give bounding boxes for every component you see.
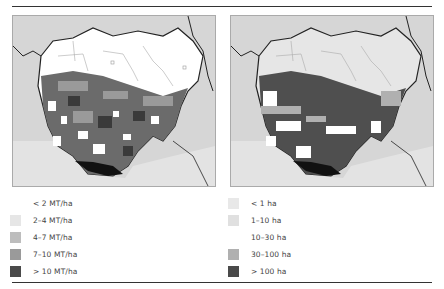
legend-swatch bbox=[228, 215, 239, 226]
legend-label: 4–7 MT/ha bbox=[33, 233, 73, 242]
legend-swatch bbox=[10, 198, 21, 209]
legend-farm-size: < 1 ha 1–10 ha 10–30 ha 30–100 ha > 100 … bbox=[228, 195, 291, 280]
legend-label: > 100 ha bbox=[251, 267, 287, 276]
nigeria-farm-size-map-graphic bbox=[231, 16, 433, 186]
legend-item: < 2 MT/ha bbox=[10, 195, 78, 212]
legend-swatch bbox=[10, 215, 21, 226]
map-yield bbox=[12, 15, 216, 187]
legend-swatch bbox=[228, 198, 239, 209]
legend-item: > 100 ha bbox=[228, 263, 291, 280]
legend-label: 7–10 MT/ha bbox=[33, 250, 77, 259]
legend-label: < 1 ha bbox=[251, 199, 277, 208]
legend-item: 30–100 ha bbox=[228, 246, 291, 263]
legend-swatch bbox=[10, 249, 21, 260]
legend-item: 4–7 MT/ha bbox=[10, 229, 78, 246]
legend-item: > 10 MT/ha bbox=[10, 263, 78, 280]
legend-swatch bbox=[228, 249, 239, 260]
legend-label: 30–100 ha bbox=[251, 250, 291, 259]
bottom-rule bbox=[12, 282, 432, 283]
legend-swatch bbox=[228, 232, 239, 243]
legend-label: > 10 MT/ha bbox=[33, 267, 78, 276]
legend-swatch bbox=[10, 232, 21, 243]
legend-label: 2–4 MT/ha bbox=[33, 216, 73, 225]
legend-item: 2–4 MT/ha bbox=[10, 212, 78, 229]
legend-label: 10–30 ha bbox=[251, 233, 286, 242]
legend-swatch bbox=[10, 266, 21, 277]
legend-swatch bbox=[228, 266, 239, 277]
nigeria-yield-map-graphic bbox=[13, 16, 215, 186]
map-farm-size bbox=[230, 15, 434, 187]
legend-item: 10–30 ha bbox=[228, 229, 291, 246]
legend-label: 1–10 ha bbox=[251, 216, 282, 225]
top-rule bbox=[12, 6, 432, 7]
legend-yield: < 2 MT/ha 2–4 MT/ha 4–7 MT/ha 7–10 MT/ha… bbox=[10, 195, 78, 280]
legend-item: 7–10 MT/ha bbox=[10, 246, 78, 263]
legend-label: < 2 MT/ha bbox=[33, 199, 73, 208]
legend-item: < 1 ha bbox=[228, 195, 291, 212]
legend-item: 1–10 ha bbox=[228, 212, 291, 229]
